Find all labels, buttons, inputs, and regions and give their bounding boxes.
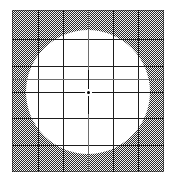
grid-line-vertical-1 (63, 10, 64, 172)
shaded-plate (12, 10, 164, 172)
grid-line-vertical-3 (113, 10, 114, 172)
grid-line-vertical-4 (138, 10, 139, 172)
center-crosshair (66, 70, 110, 114)
crosshair-center-dot (87, 91, 90, 94)
figure-root: Shaded square test plate with circular c… (0, 0, 172, 182)
grid-line-vertical-0 (38, 10, 39, 172)
